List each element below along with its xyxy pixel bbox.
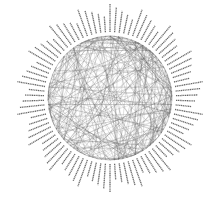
node-label: [176, 89, 201, 92]
node-label: [31, 66, 49, 73]
node-label: [77, 23, 84, 38]
node-label: [47, 146, 64, 164]
node-label: [26, 71, 47, 78]
network-edge: [114, 155, 135, 160]
network-edge: [48, 37, 97, 91]
node-label: [28, 89, 44, 91]
node-label: [173, 118, 194, 125]
network-edge: [51, 113, 170, 117]
node-label: [87, 161, 91, 176]
node-label: [137, 158, 144, 173]
node-label: [20, 105, 45, 108]
node-label: [25, 95, 44, 96]
node-label: [115, 7, 117, 32]
network-edge: [54, 125, 143, 150]
node-label: [167, 131, 191, 145]
node-label: [63, 23, 75, 42]
node-label: [22, 100, 44, 101]
node-label: [159, 142, 173, 155]
node-label: [176, 105, 192, 107]
node-label: [149, 151, 164, 171]
node-label: [85, 11, 92, 35]
node-label: [133, 10, 143, 36]
node-label: [104, 164, 106, 189]
node-label: [159, 39, 175, 54]
node-label: [173, 72, 191, 78]
node-label: [41, 44, 58, 58]
node-label: [176, 100, 195, 101]
node-label: [69, 156, 79, 175]
node-label: [174, 114, 198, 120]
node-label: [162, 46, 177, 58]
node-label: [162, 139, 179, 153]
node-label: [119, 11, 122, 33]
node-label: [115, 164, 116, 180]
node-label: [175, 110, 203, 115]
node-label: [29, 131, 53, 145]
node-label: [167, 51, 191, 65]
network-edge: [119, 67, 164, 159]
network-edge: [97, 37, 127, 157]
node-label: [128, 19, 132, 34]
node-label: [165, 135, 186, 149]
node-label: [98, 14, 101, 33]
node-label: [145, 154, 157, 173]
node-label: [156, 33, 173, 51]
network-edge: [59, 36, 106, 63]
node-label: [47, 41, 61, 54]
node-label: [119, 163, 122, 182]
node-label: [22, 76, 46, 82]
node-label: [35, 47, 56, 61]
node-label: [78, 160, 88, 186]
node-label: [124, 163, 129, 185]
node-label: [174, 78, 190, 82]
node-label: [169, 58, 192, 69]
node-label: [171, 123, 189, 130]
node-label: [175, 82, 203, 87]
network-edge: [67, 40, 89, 54]
network-edge: [59, 53, 67, 132]
node-label: [29, 51, 53, 65]
node-label: [17, 82, 45, 87]
node-label: [57, 24, 72, 44]
edge-layer: [48, 36, 172, 160]
node-label: [28, 127, 51, 138]
node-label: [29, 118, 47, 124]
network-edge: [119, 105, 172, 160]
node-label: [92, 12, 97, 34]
network-graph-canvas: [0, 0, 222, 200]
node-label: [17, 110, 45, 115]
node-label: [92, 163, 96, 182]
node-label: [98, 163, 101, 185]
network-edge: [67, 96, 172, 143]
circular-network-diagram: [0, 0, 222, 200]
node-label: [45, 142, 61, 157]
node-label: [141, 20, 151, 39]
node-label: [30, 114, 46, 118]
node-label: [43, 139, 58, 151]
node-label: [104, 16, 105, 32]
node-label: [128, 161, 135, 185]
node-label: [124, 15, 128, 34]
node-label: [176, 95, 198, 96]
